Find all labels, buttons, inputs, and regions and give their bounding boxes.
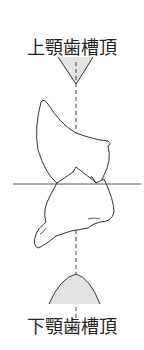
occlusion-diagram: [0, 0, 144, 350]
lower-alveolar-crest-label: 下顎歯槽頂: [0, 312, 144, 338]
